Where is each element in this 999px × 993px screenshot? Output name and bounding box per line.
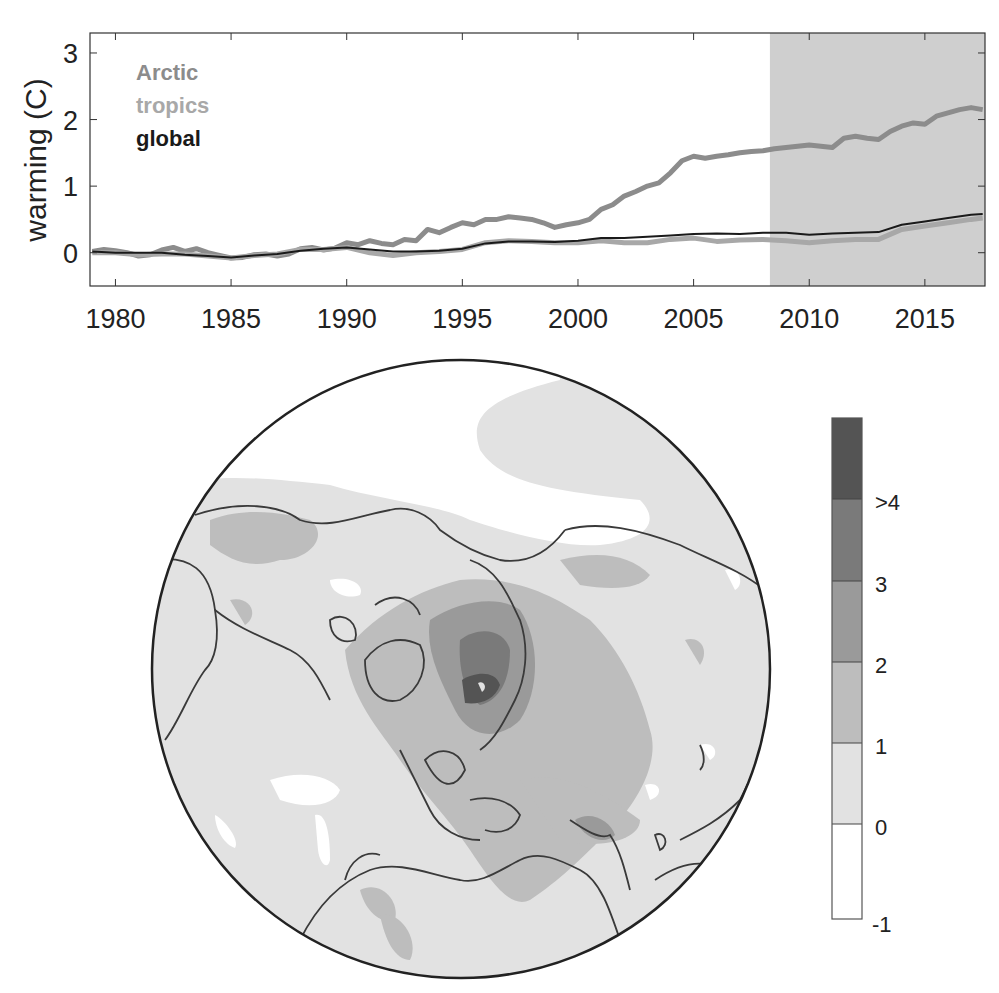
colorbar-level-5 [832, 418, 862, 499]
colorbar-label-0: 0 [875, 815, 887, 840]
x-tick-label: 2015 [895, 304, 955, 334]
y-tick-label: 2 [63, 106, 78, 136]
colorbar-level-3 [832, 581, 862, 662]
x-tick-label: 2010 [779, 304, 839, 334]
y-axis-label: warming (C) [19, 78, 52, 242]
shaded-period [770, 33, 985, 286]
colorbar-label-1: 1 [875, 734, 887, 759]
colorbar-level-2 [832, 662, 862, 743]
x-tick-label: 1980 [85, 304, 145, 334]
legend-tropics: tropics [136, 93, 209, 118]
colorbar-level-4 [832, 499, 862, 581]
y-tick-label: 0 [63, 239, 78, 269]
legend-arctic: Arctic [136, 60, 198, 85]
y-tick-label: 3 [63, 39, 78, 69]
legend: Arctic tropics global [136, 60, 209, 151]
y-tick-label: 1 [63, 172, 78, 202]
colorbar-level-0 [832, 824, 862, 919]
figure: 19801985199019952000200520102015 0123 wa… [0, 0, 999, 993]
colorbar-label-2: 2 [875, 653, 887, 678]
x-tick-label: 1985 [201, 304, 261, 334]
colorbar-label-gt4: >4 [875, 490, 900, 515]
x-tick-label: 2000 [548, 304, 608, 334]
colorbar-label-3: 3 [875, 572, 887, 597]
x-tick-label: 1990 [317, 304, 377, 334]
colorbar-label-neg1: -1 [872, 912, 892, 937]
polar-map [150, 360, 770, 978]
line-chart: 19801985199019952000200520102015 0123 wa… [19, 33, 985, 334]
legend-global: global [136, 126, 201, 151]
x-tick-label: 1995 [432, 304, 492, 334]
colorbar-level-1 [832, 743, 862, 824]
x-tick-label: 2005 [664, 304, 724, 334]
colorbar: >4 3 2 1 0 -1 [832, 418, 900, 937]
